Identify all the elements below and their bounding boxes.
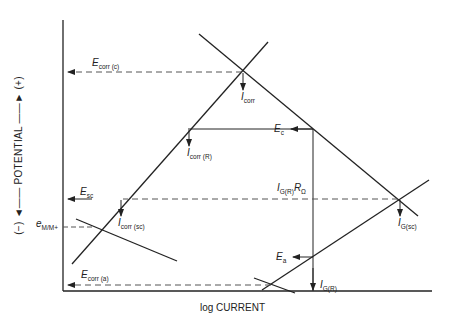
ecorr-c-label: Ecorr (c) (92, 58, 119, 71)
y-axis-label: (−) ◄—— POTENTIAL ——► (+) (13, 76, 24, 236)
esc-label: Esc (80, 187, 93, 200)
ig-sc-label: IG(sc) (398, 218, 417, 231)
cathodic-line (199, 34, 418, 216)
icorr-sc-label: Icorr (sc) (118, 218, 145, 231)
ig-r-label: IG(R) (320, 280, 337, 293)
evans-diagram (0, 0, 449, 322)
icorr-r-label: Icorr (R) (187, 148, 212, 161)
ec-label: Ec (274, 124, 284, 137)
e-mm-label: eM/M+ (36, 219, 58, 232)
icorr-label: Icorr (241, 92, 255, 105)
galvanic-anodic-line (262, 180, 429, 290)
ir-drop-label: IG(R)RΩ (277, 183, 306, 196)
ea-label: Ea (276, 252, 286, 265)
anodic-line (72, 42, 268, 264)
ecorr-a-label: Ecorr (a) (81, 270, 109, 283)
x-axis-label: log CURRENT (200, 302, 265, 313)
